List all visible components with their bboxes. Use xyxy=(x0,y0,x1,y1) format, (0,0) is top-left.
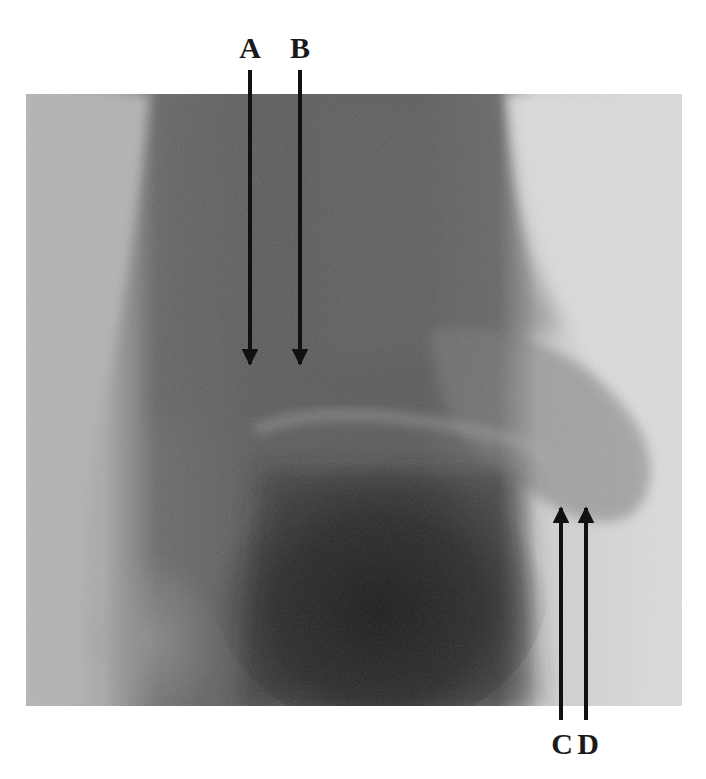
label-c: C xyxy=(551,727,573,760)
radiograph-figure: A B C D xyxy=(0,0,706,779)
label-b: B xyxy=(290,31,310,64)
radiograph-image xyxy=(26,94,682,730)
label-d: D xyxy=(577,727,599,760)
label-a: A xyxy=(239,31,261,64)
